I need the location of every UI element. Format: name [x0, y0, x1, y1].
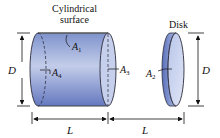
- gap-length-label: L: [141, 124, 148, 136]
- svg-text:A2: A2: [145, 68, 156, 81]
- disk-diameter-dimension: D: [188, 33, 210, 106]
- cylinder-diameter-label: D: [7, 64, 16, 76]
- disk-face: [168, 33, 184, 106]
- cylinder-length-label: L: [66, 124, 73, 136]
- disk: [162, 33, 184, 106]
- disk-label: Disk: [169, 19, 188, 30]
- cylinder-diameter-dimension: D: [7, 33, 30, 106]
- svg-text:A3: A3: [119, 64, 130, 77]
- disk-diameter-label: D: [201, 64, 210, 76]
- cylinder-disk-diagram: D D L L Cylindrical surface Disk A1 A4 A…: [0, 0, 220, 138]
- cylindrical-surface-label-line2: surface: [60, 14, 89, 25]
- length-dimensions: L L: [32, 112, 184, 136]
- cylinder-body: [30, 33, 108, 106]
- cylindrical-surface-label-line1: Cylindrical: [52, 3, 97, 14]
